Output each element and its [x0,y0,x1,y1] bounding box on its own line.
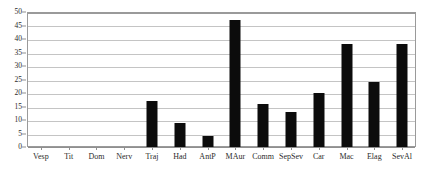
y-axis: 05101520253035404550 [0,12,25,147]
bar-slot[interactable] [333,12,361,147]
bar-slot[interactable] [166,12,194,147]
bar[interactable] [230,20,241,147]
y-tick-label: 50 [15,8,23,16]
y-tick-label: 45 [15,22,23,30]
y-tick-mark [22,66,26,67]
x-tick-label: Elag [367,151,382,162]
x-tick-mark [41,147,42,150]
x-tick-mark [374,147,375,150]
x-tick-label: Car [313,151,325,162]
x-tick-label: AntP [199,151,215,162]
y-tick-label: 10 [15,116,23,124]
x-tick-label: SepSev [279,151,303,162]
y-tick-mark [22,147,26,148]
bar-slot[interactable] [194,12,222,147]
bar-slot[interactable] [249,12,277,147]
x-tick-mark [235,147,236,150]
x-tick-mark [180,147,181,150]
x-tick-label: SevAl [392,151,412,162]
y-tick-mark [22,52,26,53]
x-tick-label: Vesp [33,151,49,162]
x-tick-mark [263,147,264,150]
bar-slot[interactable] [277,12,305,147]
y-tick-mark [22,39,26,40]
bar-slot[interactable] [138,12,166,147]
y-tick-mark [22,106,26,107]
bar-slot[interactable] [388,12,416,147]
y-tick-mark [22,12,26,13]
bar-slot[interactable] [360,12,388,147]
bar[interactable] [174,123,185,147]
bar-slot[interactable] [305,12,333,147]
bars-group [27,12,416,147]
y-tick-mark [22,120,26,121]
x-tick-label: MAur [226,151,246,162]
x-tick-label: Traj [146,151,159,162]
x-tick-label: Mac [339,151,353,162]
x-tick-mark [402,147,403,150]
bar-slot[interactable] [110,12,138,147]
bar[interactable] [397,44,408,147]
y-tick-mark [22,133,26,134]
x-tick-label: Comm [252,151,274,162]
x-tick-mark [319,147,320,150]
y-tick-mark [22,25,26,26]
x-tick-label: Tit [64,151,73,162]
x-tick-label: Nerv [116,151,132,162]
y-tick-label: 30 [15,62,23,70]
bar-slot[interactable] [83,12,111,147]
x-tick-label: Had [173,151,186,162]
x-tick-mark [69,147,70,150]
x-tick-mark [124,147,125,150]
bar[interactable] [258,104,269,147]
bar-slot[interactable] [55,12,83,147]
bar[interactable] [285,112,296,147]
y-tick-label: 40 [15,35,23,43]
bar[interactable] [202,136,213,147]
x-tick-mark [152,147,153,150]
x-tick-mark [96,147,97,150]
bar[interactable] [341,44,352,147]
bar-slot[interactable] [27,12,55,147]
y-tick-label: 20 [15,89,23,97]
y-tick-label: 25 [15,76,23,84]
x-tick-mark [208,147,209,150]
x-tick-mark [291,147,292,150]
bar[interactable] [147,101,158,147]
y-tick-mark [22,79,26,80]
y-tick-label: 35 [15,49,23,57]
x-tick-mark [347,147,348,150]
x-axis: VespTitDomNervTrajHadAntPMAurCommSepSevC… [27,151,416,165]
bar-chart: 05101520253035404550 VespTitDomNervTrajH… [0,0,427,170]
bar[interactable] [369,82,380,147]
bar-slot[interactable] [222,12,250,147]
y-tick-mark [22,93,26,94]
x-tick-label: Dom [88,151,104,162]
bar[interactable] [313,93,324,147]
y-tick-label: 15 [15,103,23,111]
